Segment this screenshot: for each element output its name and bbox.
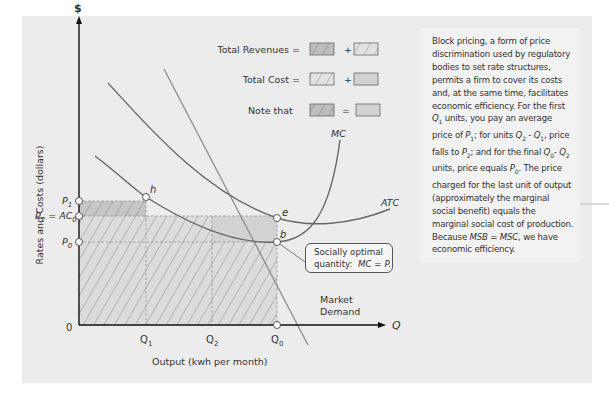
y-axis-arrow-icon <box>76 16 82 24</box>
y-tick-p1: P1 <box>62 195 72 209</box>
point-p0 <box>76 239 83 246</box>
x-tick-q2: Q2 <box>206 334 218 348</box>
label-e: e <box>282 207 288 218</box>
legend-swatch-hatch-overlay <box>310 73 334 85</box>
legend-total-cost: Total Cost = <box>242 74 300 85</box>
callout-formula: MC = P. <box>358 259 391 269</box>
x-tick-q0: Q0 <box>271 334 283 348</box>
legend-swatch-hatch-overlay <box>310 104 334 116</box>
legend-total-revenues: Total Revenues = <box>216 44 300 55</box>
legend-swatch-gray-2 <box>356 104 380 116</box>
callout-prefix: quantity: <box>314 259 353 269</box>
legend-swatch-hatch-overlay <box>354 43 378 55</box>
callout-line2: quantity: MC = P. <box>314 258 392 270</box>
legend-plus-1: + <box>344 44 352 55</box>
hatch-dark <box>79 201 146 216</box>
hatch-q0 <box>212 242 277 325</box>
point-q0 <box>274 322 281 329</box>
point-e <box>274 215 281 222</box>
legend-swatch-hatch-overlay <box>310 43 334 55</box>
shaded-regions <box>79 201 277 325</box>
y-tick-p0: P0 <box>62 236 73 250</box>
caption-text: Block pricing, a form of price discrimin… <box>420 28 580 256</box>
label-b: b <box>280 229 286 240</box>
mc-label: MC <box>331 128 346 139</box>
label-h: h <box>150 184 156 195</box>
point-h <box>143 194 150 201</box>
y-axis-symbol: $ <box>74 2 82 15</box>
legend-plus-2: + <box>344 74 352 85</box>
x-tick-q1: Q1 <box>140 334 152 348</box>
callout-line1: Socially optimal <box>314 246 392 258</box>
gray-cost-block <box>212 216 277 242</box>
legend-swatch-gray <box>354 73 378 85</box>
legend-note-that: Note that <box>248 105 293 116</box>
x-axis-arrow-icon <box>378 322 386 328</box>
point-p1 <box>76 198 83 205</box>
legend: Total Revenues = + Total Cost = + Note t… <box>216 43 380 116</box>
x-axis-symbol: Q <box>392 319 401 332</box>
x-tick-labels: Q1 Q2 Q0 <box>140 334 283 348</box>
caption-box: Block pricing, a form of price discrimin… <box>420 28 580 262</box>
x-axis-label: Output (kwh per month) <box>152 356 267 367</box>
hatch-q2 <box>79 216 212 325</box>
atc-label: ATC <box>380 197 400 208</box>
origin-label: 0 <box>66 322 72 333</box>
socially-optimal-callout: Socially optimal quantity: MC = P. <box>305 243 393 273</box>
demand-label-2: Demand <box>320 306 360 317</box>
demand-label-1: Market <box>320 294 353 305</box>
callout-pointer <box>277 242 305 262</box>
legend-equals: = <box>342 105 350 116</box>
y-axis-label: Rates and Costs (dollars) <box>34 146 45 265</box>
